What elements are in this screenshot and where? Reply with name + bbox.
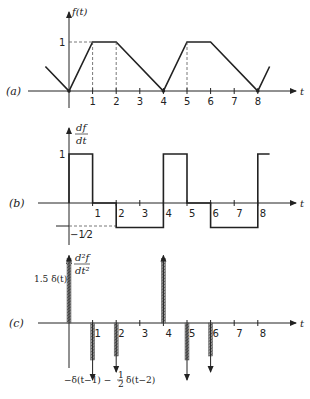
- y-axis-label-den: dt²: [75, 265, 89, 276]
- x-tick-label: 4: [165, 208, 171, 219]
- y-tick-label-1: 1: [59, 37, 65, 48]
- panel-label: (a): [6, 85, 21, 98]
- x-tick-label: 8: [260, 208, 266, 219]
- x-tick-label: 1: [90, 96, 96, 107]
- y-tick-label-1: 1: [59, 149, 65, 160]
- zero-point: [162, 89, 166, 93]
- y-tick-label-neg-half: −1⁄2: [70, 229, 93, 240]
- x-tick-label: 7: [236, 328, 242, 339]
- panel-label: (b): [9, 197, 25, 210]
- x-tick-label: 6: [213, 328, 219, 339]
- y-axis-label-num: d²f: [75, 252, 91, 263]
- x-tick-label: 5: [189, 328, 195, 339]
- x-tick-label: 7: [236, 208, 242, 219]
- x-tick-label: 3: [142, 208, 148, 219]
- x-axis-label: t: [300, 198, 305, 209]
- x-tick-label: 2: [118, 208, 124, 219]
- zero-point: [256, 89, 260, 93]
- impulse-annotation-frac-den: 2: [118, 379, 124, 389]
- x-tick-label: 5: [189, 208, 195, 219]
- x-tick-label: 7: [231, 96, 237, 107]
- panel-b: (b) df dt t 1 −1⁄2 12345678: [9, 122, 305, 245]
- panel-c: (c) d²f dt² t 1.5 δ(t) −δ(t−1) − 1 2 δ(t…: [9, 252, 305, 389]
- x-tick-label: 5: [184, 96, 190, 107]
- panel-a: (a) f(t) t 1 12345678: [6, 6, 305, 108]
- x-tick-label: 6: [208, 96, 214, 107]
- x-tick-label: 1: [95, 208, 101, 219]
- figure-canvas: (a) f(t) t 1 12345678 (b) df dt t 1 −1⁄2…: [0, 0, 310, 399]
- x-tick-label: 8: [255, 96, 261, 107]
- y-axis-label: f(t): [71, 6, 88, 17]
- x-tick-label: 2: [118, 328, 124, 339]
- x-tick-label: 4: [165, 328, 171, 339]
- zero-point: [67, 89, 71, 93]
- impulse-annotation-bottom-a: −δ(t−1) −: [64, 375, 111, 385]
- x-axis-label: t: [300, 318, 305, 329]
- x-tick-label: 1: [95, 328, 101, 339]
- y-axis-label-num: df: [76, 122, 88, 133]
- x-tick-label: 2: [113, 96, 119, 107]
- x-tick-label: 6: [213, 208, 219, 219]
- x-axis-label: t: [300, 86, 305, 97]
- x-tick-label: 4: [160, 96, 166, 107]
- x-tick-label: 3: [137, 96, 143, 107]
- signal-f: [45, 42, 269, 91]
- y-axis-label-den: dt: [76, 135, 87, 146]
- impulse-annotation-top: 1.5 δ(t): [34, 274, 67, 284]
- x-tick-label: 3: [142, 328, 148, 339]
- x-tick-label: 8: [260, 328, 266, 339]
- impulse-annotation-bottom-b: δ(t−2): [126, 375, 155, 385]
- panel-label: (c): [9, 317, 24, 330]
